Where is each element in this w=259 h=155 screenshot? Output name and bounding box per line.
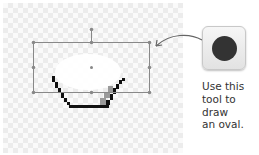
resize-handle-top-right[interactable] [148, 41, 152, 45]
caption-line: draw [202, 106, 258, 119]
rotation-handle[interactable] [90, 28, 94, 32]
canvas-drawing [0, 0, 259, 155]
resize-handle-top[interactable] [90, 41, 94, 45]
oval-tool-button[interactable] [202, 26, 246, 70]
resize-handle-bottom[interactable] [90, 91, 94, 95]
resize-handle-right[interactable] [148, 66, 152, 70]
resize-handle-left[interactable] [32, 66, 36, 70]
instruction-caption: Use this tool to draw an oval. [202, 80, 258, 131]
oval-shape[interactable] [55, 54, 121, 90]
caption-line: Use this [202, 80, 258, 93]
resize-handle-bottom-left[interactable] [32, 91, 36, 95]
caption-line: tool to [202, 93, 258, 106]
center-handle[interactable] [90, 66, 93, 69]
caption-line: an oval. [202, 118, 258, 131]
resize-handle-bottom-right[interactable] [148, 91, 152, 95]
resize-handle-top-left[interactable] [32, 41, 36, 45]
oval-tool-icon [212, 36, 237, 61]
callout-arrow-icon [156, 35, 202, 46]
